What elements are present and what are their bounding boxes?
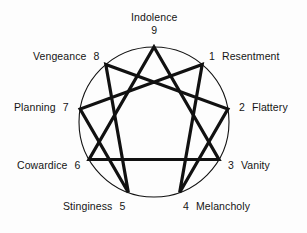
enneagram-label-9: Indolence 9	[131, 12, 177, 36]
enneagram-circle	[79, 47, 229, 197]
enneagram-label-8: Vengeance8	[33, 51, 99, 62]
enneagram-diagram: Indolence 9 1Resentment 2Flattery 3Vanit…	[0, 0, 307, 233]
vice-label-7: Planning	[14, 101, 56, 113]
vice-label-4: Melancholy	[196, 200, 250, 212]
vice-label-5: Stinginess	[63, 200, 112, 212]
point-number-6: 6	[75, 160, 81, 171]
vice-label-9: Indolence	[131, 12, 177, 23]
point-number-1: 1	[209, 51, 215, 62]
enneagram-label-1: 1Resentment	[209, 51, 280, 62]
point-number-4: 4	[183, 201, 189, 212]
enneagram-label-2: 2Flattery	[239, 102, 288, 113]
vice-label-2: Flattery	[252, 101, 288, 113]
enneagram-label-7: Planning7	[14, 102, 69, 113]
vice-label-6: Cowardice	[17, 159, 68, 171]
point-number-3: 3	[228, 160, 234, 171]
vice-label-1: Resentment	[222, 50, 280, 62]
vice-label-3: Vanity	[241, 159, 270, 171]
point-number-8: 8	[93, 51, 99, 62]
point-number-5: 5	[119, 201, 125, 212]
enneagram-hexad	[80, 65, 228, 193]
enneagram-label-6: Cowardice6	[17, 160, 80, 171]
vice-label-8: Vengeance	[33, 50, 86, 62]
enneagram-label-3: 3Vanity	[228, 160, 270, 171]
enneagram-label-4: 4Melancholy	[183, 201, 250, 212]
point-number-2: 2	[239, 102, 245, 113]
point-number-9: 9	[131, 25, 177, 36]
enneagram-label-5: Stinginess5	[63, 201, 125, 212]
point-number-7: 7	[63, 102, 69, 113]
